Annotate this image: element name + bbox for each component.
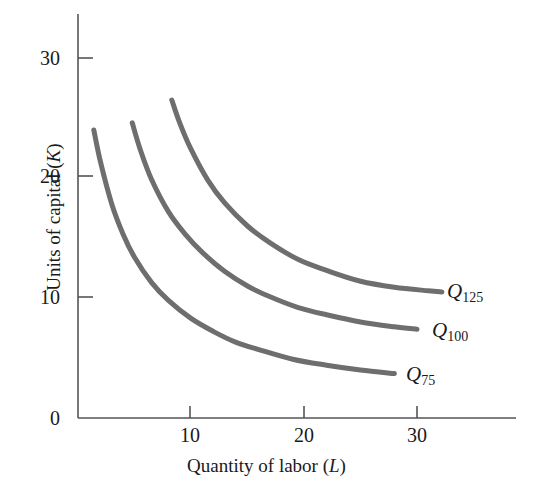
curve-label-q75-symbol: Q <box>406 362 421 386</box>
y-axis-title-suffix: ) <box>43 143 64 149</box>
curve-label-q75-subscript: 75 <box>421 373 435 388</box>
curve-label-q125-symbol: Q <box>447 279 462 303</box>
y-axis-title-variable: K <box>43 150 64 163</box>
x-tick-label-30: 30 <box>394 425 440 445</box>
x-axis-title-prefix: Quantity of labor ( <box>187 455 329 476</box>
y-axis-title-prefix: Units of capital ( <box>43 162 64 290</box>
y-axis-title: Units of capital (K) <box>43 87 65 347</box>
isoquant-curves <box>94 100 442 374</box>
x-axis-title: Quantity of labor (L) <box>0 455 533 477</box>
curve-label-q100: Q100 <box>432 320 468 341</box>
x-axis-title-variable: L <box>329 455 340 476</box>
curve-label-q125-subscript: 125 <box>462 290 483 305</box>
isoquant-curve-q100 <box>132 123 417 329</box>
curve-label-q100-subscript: 100 <box>447 329 468 344</box>
isoquant-figure: 30 20 10 0 10 20 30 Quantity of labor (L… <box>0 0 533 489</box>
y-tick-label-0: 0 <box>14 408 60 428</box>
x-tick-label-10: 10 <box>167 425 213 445</box>
x-axis-title-suffix: ) <box>340 455 346 476</box>
curve-label-q100-symbol: Q <box>432 318 447 342</box>
plot-area <box>0 0 533 489</box>
x-tick-label-20: 20 <box>281 425 327 445</box>
curve-label-q75: Q75 <box>406 364 435 385</box>
isoquant-curve-q75 <box>94 130 395 374</box>
y-tick-label-30: 30 <box>14 48 60 68</box>
curve-label-q125: Q125 <box>447 281 483 302</box>
